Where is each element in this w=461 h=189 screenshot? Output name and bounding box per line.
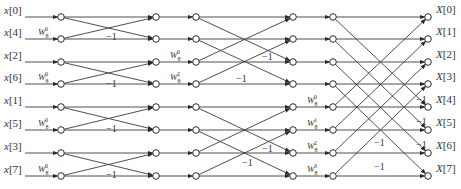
twiddle-factor-label: W82 <box>307 140 318 153</box>
minus-one-label: −1 <box>374 161 385 172</box>
node-circle <box>290 127 297 134</box>
node-circle <box>330 81 337 88</box>
node-circle <box>153 36 160 43</box>
output-label: X[2] <box>435 48 456 60</box>
node-circle <box>330 104 337 111</box>
node-circle <box>153 14 160 21</box>
node-circle <box>330 173 337 180</box>
twiddle-factor-label: W80 <box>307 94 318 107</box>
input-label: x[2] <box>3 49 22 61</box>
node-circle <box>330 59 337 66</box>
minus-one-label: −1 <box>106 78 117 89</box>
output-label: X[5] <box>435 116 456 128</box>
minus-one-label: −1 <box>416 139 427 150</box>
minus-one-label: −1 <box>416 94 427 105</box>
input-label: x[4] <box>3 26 22 38</box>
twiddle-factor-label: W80 <box>38 71 49 84</box>
node-circle <box>153 127 160 134</box>
node-circle <box>290 59 297 66</box>
node-circle <box>193 150 200 157</box>
output-label: X[1] <box>435 25 456 37</box>
node-circle <box>425 150 432 157</box>
node-circle <box>425 127 432 134</box>
node-circle <box>425 36 432 43</box>
node-circle <box>290 104 297 111</box>
twiddle-factor-label: W80 <box>170 49 181 62</box>
node-circle <box>153 81 160 88</box>
node-circle <box>330 14 337 21</box>
node-circle <box>425 173 432 180</box>
twiddle-factor-label: W80 <box>38 163 49 176</box>
node-circle <box>58 81 65 88</box>
output-label: X[7] <box>435 162 456 174</box>
minus-one-label: −1 <box>106 169 117 180</box>
node-circle <box>153 173 160 180</box>
minus-one-label: −1 <box>262 143 273 154</box>
node-circle <box>330 127 337 134</box>
node-circle <box>330 36 337 43</box>
node-circle <box>290 173 297 180</box>
node-circle <box>193 173 200 180</box>
twiddle-factor-label: W82 <box>170 71 181 84</box>
minus-one-label: −1 <box>374 137 385 148</box>
twiddle-factor-label: W83 <box>307 163 318 176</box>
node-circle <box>58 127 65 134</box>
node-circle <box>58 36 65 43</box>
twiddle-factor-label: W80 <box>38 117 49 130</box>
node-circle <box>153 59 160 66</box>
node-circle <box>58 59 65 66</box>
output-label: X[3] <box>435 70 456 82</box>
node-circle <box>193 36 200 43</box>
twiddle-factor-label: W80 <box>38 26 49 39</box>
input-label: x[1] <box>3 94 22 106</box>
node-circle <box>193 104 200 111</box>
minus-one-label: −1 <box>236 73 247 84</box>
node-circle <box>290 81 297 88</box>
input-label: x[5] <box>3 117 22 129</box>
minus-one-label: −1 <box>106 31 117 42</box>
minus-one-label: −1 <box>106 123 117 134</box>
node-circle <box>290 36 297 43</box>
input-label: x[6] <box>3 71 22 83</box>
node-circle <box>153 150 160 157</box>
node-circle <box>290 14 297 21</box>
input-label: x[7] <box>3 163 22 175</box>
output-label: X[4] <box>435 93 456 105</box>
input-label: x[3] <box>3 140 22 152</box>
minus-one-label: −1 <box>242 157 253 168</box>
node-circle <box>425 14 432 21</box>
node-circle <box>58 150 65 157</box>
minus-one-label: −1 <box>262 51 273 62</box>
node-circle <box>58 14 65 21</box>
node-circle <box>290 150 297 157</box>
wires <box>25 17 426 176</box>
node-circle <box>425 59 432 66</box>
twiddle-factor-label: W81 <box>307 117 318 130</box>
node-circle <box>193 81 200 88</box>
output-label: X[0] <box>435 3 456 15</box>
input-label: x[0] <box>3 4 22 16</box>
node-circle <box>153 104 160 111</box>
node-circle <box>330 150 337 157</box>
node-circle <box>193 14 200 21</box>
minus-one-label: −1 <box>416 116 427 127</box>
node-circle <box>58 173 65 180</box>
node-circle <box>425 81 432 88</box>
output-label: X[6] <box>435 139 456 151</box>
node-circle <box>58 104 65 111</box>
fft-butterfly-diagram: x[0]x[4]x[2]x[6]x[1]x[5]x[3]x[7]W80W80W8… <box>0 0 461 189</box>
node-circle <box>193 127 200 134</box>
node-circle <box>193 59 200 66</box>
